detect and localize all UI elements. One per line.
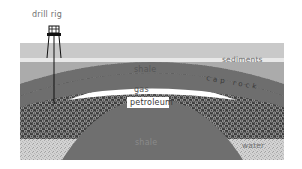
label-drill-rig: drill rig: [32, 10, 62, 19]
label-petroleum: petroleum: [130, 98, 173, 107]
label-shale-upper: shale: [134, 65, 156, 74]
label-gas: gas: [134, 85, 149, 94]
label-water: water: [242, 141, 265, 150]
oil-trap-diagram: drill rig sediments shale cap rock gas p…: [0, 0, 302, 169]
label-sediments: sediments: [222, 55, 263, 64]
label-shale-lower: shale: [135, 138, 157, 147]
